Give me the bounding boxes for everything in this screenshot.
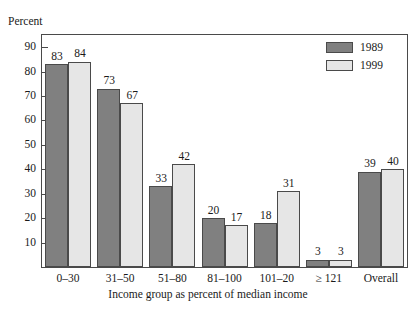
y-axis-label: 50 [0, 139, 36, 151]
bars-layer: 83847367334220171831333940 [42, 35, 407, 267]
y-axis-label: 10 [0, 237, 36, 249]
cut-off-title-strip [0, 0, 416, 7]
bar-1989-101–20 [254, 223, 277, 267]
bar-value-label: 40 [378, 156, 408, 168]
y-axis-label: 40 [0, 163, 36, 175]
bar-group: 7367 [97, 35, 143, 267]
bar-value-label: 84 [65, 48, 95, 60]
bar-1989-81–100 [202, 218, 225, 267]
bar-1999-51–80 [172, 164, 195, 267]
bar-1989-≥ 121 [306, 260, 329, 267]
bar-group: 33 [306, 35, 352, 267]
bar-value-label: 73 [94, 75, 124, 87]
bar-value-label: 3 [326, 246, 356, 258]
bar-1999-81–100 [225, 225, 248, 267]
x-axis-caption: Income group as percent of median income [0, 288, 416, 300]
y-axis-label: 60 [0, 114, 36, 126]
bar-group: 8384 [45, 35, 91, 267]
y-axis-label: 90 [0, 41, 36, 53]
bar-value-label: 67 [117, 90, 147, 102]
bar-1989-0–30 [45, 64, 68, 267]
bar-value-label: 42 [169, 151, 199, 163]
x-axis-label: Overall [341, 272, 416, 284]
y-axis-caption: Percent [8, 15, 42, 28]
bar-group: 3940 [358, 35, 404, 267]
y-axis-label: 30 [0, 188, 36, 200]
bar-value-label: 17 [222, 212, 252, 224]
y-axis-label: 20 [0, 212, 36, 224]
bar-1989-31–50 [97, 89, 120, 267]
bar-group: 3342 [149, 35, 195, 267]
bar-1989-Overall [358, 172, 381, 267]
bar-group: 1831 [254, 35, 300, 267]
bar-1999-0–30 [68, 62, 91, 267]
bar-group: 2017 [202, 35, 248, 267]
bar-1999-≥ 121 [329, 260, 352, 267]
bar-value-label: 31 [274, 178, 304, 190]
bar-1999-101–20 [277, 191, 300, 267]
bar-1999-31–50 [120, 103, 143, 267]
bar-chart: Percent 102030405060708090 1989 1999 838… [0, 0, 416, 320]
bar-1999-Overall [381, 169, 404, 267]
y-axis-label: 80 [0, 66, 36, 78]
bar-1989-51–80 [149, 186, 172, 267]
y-axis-label: 70 [0, 90, 36, 102]
